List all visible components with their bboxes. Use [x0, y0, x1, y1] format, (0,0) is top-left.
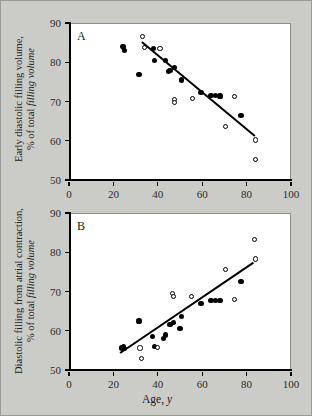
x-tick-0: [68, 182, 69, 186]
y-tick-60: [65, 140, 69, 141]
panel-a-frame-top: [69, 23, 291, 24]
y-tick-60: [65, 330, 69, 331]
y-tick-80: [65, 62, 69, 63]
x-tick-label-20: 20: [96, 379, 130, 390]
panel-b-y-axis-label: Diastolic filling from atrial contractio…: [13, 202, 37, 380]
data-point-filled: [198, 301, 203, 306]
panel-b-letter: B: [77, 220, 85, 232]
data-point-filled: [177, 326, 182, 331]
data-point-open: [140, 34, 145, 39]
figure-container: Early diastolic filling volume, % of tot…: [0, 0, 312, 416]
panel-b-y-axis-label-line2-prefix: % of total: [25, 298, 36, 342]
data-point-filled: [179, 314, 184, 319]
x-axis-label-italic: y: [167, 393, 172, 405]
data-point-open: [253, 256, 258, 261]
panel-b-y-axis: [69, 212, 71, 371]
x-tick-label-0: 0: [52, 379, 86, 390]
y-tick-label-50: 50: [39, 175, 61, 186]
x-tick-80: [246, 182, 247, 186]
x-tick-60: [202, 182, 203, 186]
data-point-filled: [217, 93, 222, 98]
panel-b-frame-top: [69, 213, 291, 214]
y-tick-label-60: 60: [39, 326, 61, 337]
data-point-open: [171, 294, 176, 299]
panel-a-y-axis-label: Early diastolic filling volume, % of tot…: [13, 11, 37, 187]
panel-b-y-axis-label-line1: Diastolic filling from atrial contractio…: [13, 208, 24, 374]
panel-a-y-axis-label-line2-prefix: % of total: [25, 106, 36, 150]
x-tick-label-60: 60: [185, 379, 219, 390]
panel-a: Early diastolic filling volume, % of tot…: [1, 5, 312, 201]
y-tick-90: [65, 22, 69, 23]
panel-a-y-axis: [69, 22, 71, 181]
y-tick-70: [65, 291, 69, 292]
y-tick-80: [65, 252, 69, 253]
panel-b-plot-area: [69, 213, 291, 370]
y-tick-label-70: 70: [39, 287, 61, 298]
data-point-open: [137, 345, 142, 350]
panel-a-y-axis-label-line2-italic: filling volume: [25, 48, 36, 106]
x-tick-0: [68, 372, 69, 376]
panel-b: Diastolic filling from atrial contractio…: [1, 197, 312, 415]
y-tick-label-60: 60: [39, 136, 61, 147]
panel-a-y-axis-label-line1: Early diastolic filling volume,: [13, 36, 24, 162]
panel-b-y-axis-label-line2-italic: filling volume: [25, 240, 36, 298]
data-point-filled: [163, 332, 168, 337]
data-point-filled: [136, 318, 141, 323]
x-tick-100: [290, 372, 291, 376]
y-tick-90: [65, 212, 69, 213]
x-axis-label: Age, y: [1, 393, 312, 405]
data-point-filled: [179, 77, 184, 82]
x-tick-80: [246, 372, 247, 376]
x-axis-label-main: Age,: [142, 393, 167, 405]
x-tick-20: [113, 372, 114, 376]
panel-a-frame-right: [290, 23, 291, 180]
x-tick-60: [202, 372, 203, 376]
data-point-filled: [217, 298, 222, 303]
panel-a-x-axis: [68, 179, 292, 181]
data-point-open: [189, 294, 194, 299]
x-tick-label-100: 100: [274, 379, 308, 390]
x-tick-40: [157, 182, 158, 186]
x-tick-label-80: 80: [230, 379, 264, 390]
panel-b-x-axis: [68, 369, 292, 371]
x-tick-40: [157, 372, 158, 376]
y-tick-label-90: 90: [39, 208, 61, 219]
data-point-filled: [136, 72, 141, 77]
panel-b-frame-right: [290, 213, 291, 370]
y-tick-label-70: 70: [39, 97, 61, 108]
data-point-open: [253, 137, 258, 142]
y-tick-label-80: 80: [39, 247, 61, 258]
x-tick-20: [113, 182, 114, 186]
data-point-open: [157, 46, 162, 51]
y-tick-label-90: 90: [39, 18, 61, 29]
data-point-open: [172, 100, 177, 105]
x-tick-100: [290, 182, 291, 186]
y-tick-50: [65, 179, 69, 180]
data-point-open: [252, 237, 257, 242]
data-point-filled: [238, 279, 243, 284]
data-point-filled: [150, 334, 155, 339]
x-tick-label-40: 40: [141, 379, 175, 390]
y-tick-label-50: 50: [39, 365, 61, 376]
y-tick-50: [65, 369, 69, 370]
y-tick-70: [65, 101, 69, 102]
panel-a-letter: A: [77, 30, 86, 42]
y-tick-label-80: 80: [39, 57, 61, 68]
data-point-open: [139, 356, 144, 361]
data-point-open: [253, 157, 258, 162]
data-point-filled: [238, 113, 243, 118]
panel-a-plot-area: [69, 23, 291, 180]
